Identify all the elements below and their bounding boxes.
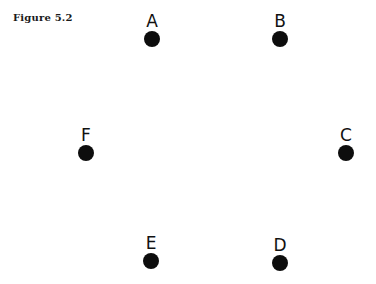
node-dot [78,145,94,161]
node-label: B [265,12,295,30]
node-c: C [331,126,361,166]
node-f: F [71,126,101,166]
node-label: E [136,234,166,252]
node-b: B [265,12,295,52]
node-dot [272,255,288,271]
node-dot [144,31,160,47]
node-label: C [331,126,361,144]
node-label: A [137,12,167,30]
node-label: D [265,236,295,254]
node-e: E [136,234,166,274]
figure-caption: Figure 5.2 [13,12,73,23]
node-d: D [265,236,295,276]
node-dot [272,31,288,47]
node-label: F [71,126,101,144]
node-dot [338,145,354,161]
node-a: A [137,12,167,52]
node-dot [143,253,159,269]
